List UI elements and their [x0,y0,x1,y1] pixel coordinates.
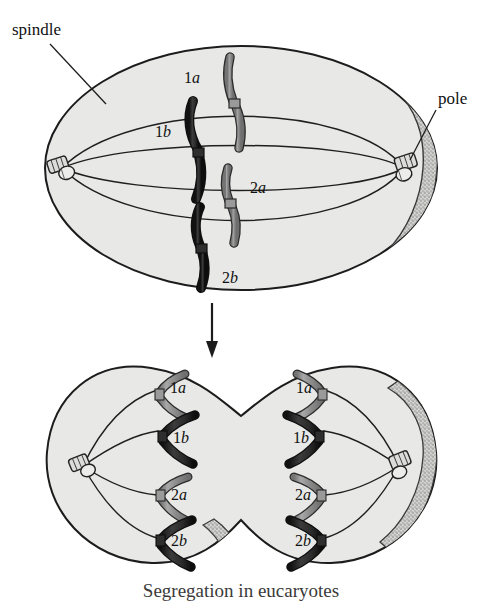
centromere-left-2a [156,490,165,501]
lower-left-label-1b: 1b [173,429,189,446]
upper-label-1b: 1b [155,123,171,140]
lower-left-label-2a: 2a [171,486,187,503]
segregation-diagram: 1a 1b 2a 2b spindle pole [0,0,483,602]
figure-caption: Segregation in eucaryotes [143,580,339,601]
upper-label-1a: 1a [184,69,200,86]
lower-right-label-2b: 2b [295,532,311,549]
centromere-right-2a [317,490,326,501]
lower-left-label-1a: 1a [170,379,186,396]
centromere-2a [225,199,236,208]
upper-cell-body [45,46,437,290]
centromere-2b [196,244,207,253]
lower-cell-body [47,367,437,563]
upper-cell-metaphase: 1a 1b 2a 2b [45,46,438,290]
lower-right-label-1b: 1b [293,429,309,446]
upper-label-2b: 2b [222,269,238,286]
centromere-1a [229,99,240,108]
pole-label: pole [438,89,467,108]
spindle-leader-line [50,44,106,104]
lower-right-label-2a: 2a [295,486,311,503]
centromere-right-1a [318,389,327,400]
transition-arrow [206,303,218,358]
figure-root: 1a 1b 2a 2b spindle pole [0,0,483,602]
centromere-1b [193,148,204,157]
lower-right-label-1a: 1a [296,379,312,396]
upper-label-2a: 2a [250,179,266,196]
lower-left-label-2b: 2b [171,532,187,549]
centromere-right-2b [317,535,326,546]
centromere-right-1b [315,431,324,442]
lower-cell-anaphase: 1a 1b 2a 2b 1a 1b 2a 2b [47,367,438,567]
centromere-left-1b [158,431,167,442]
centromere-left-2b [156,535,165,546]
centromere-left-1a [155,389,164,400]
spindle-label: spindle [12,20,61,39]
